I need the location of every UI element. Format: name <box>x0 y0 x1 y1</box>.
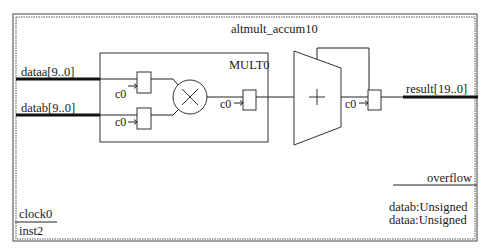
register-4[interactable] <box>368 90 381 110</box>
overflow-label: overflow <box>427 172 472 185</box>
mult0-label: MULT0 <box>229 59 270 72</box>
datab-label: datab[9..0] <box>21 102 75 115</box>
result-label: result[19..0] <box>406 83 467 96</box>
adder-block[interactable] <box>294 51 341 145</box>
instance-label: inst2 <box>19 225 43 238</box>
param-datab: datab:Unsigned <box>389 201 467 214</box>
reg3-clock-label: c0 <box>220 98 231 110</box>
reg4-clock-label: c0 <box>345 98 356 110</box>
wire-reg1-mult <box>151 79 179 86</box>
block-title: altmult_accum10 <box>231 23 318 36</box>
wire-reg2-mult <box>151 109 179 115</box>
clock0-label: clock0 <box>19 208 52 221</box>
multiply-icon[interactable] <box>173 80 207 114</box>
reg1-clock-label: c0 <box>115 88 126 100</box>
param-dataa: dataa:Unsigned <box>389 214 467 227</box>
register-2[interactable] <box>137 108 151 129</box>
dataa-label: dataa[9..0] <box>21 66 74 79</box>
reg2-clock-label: c0 <box>115 116 126 128</box>
register-1[interactable] <box>137 72 151 93</box>
register-3[interactable] <box>243 90 256 110</box>
